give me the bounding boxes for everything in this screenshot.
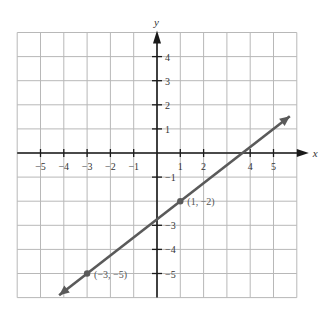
y-tick-label: −3 bbox=[165, 220, 176, 231]
x-tick-label: 1 bbox=[178, 161, 183, 172]
y-tick-label: −5 bbox=[165, 269, 176, 280]
x-axis-label: x bbox=[312, 147, 318, 159]
x-tick-label: −5 bbox=[35, 161, 46, 172]
x-tick-label: −3 bbox=[82, 161, 93, 172]
x-tick-label: −1 bbox=[128, 161, 139, 172]
y-tick-label: 4 bbox=[165, 52, 170, 63]
y-tick-label: 2 bbox=[165, 100, 170, 111]
x-tick-label: 4 bbox=[248, 161, 253, 172]
y-tick-label: −1 bbox=[165, 172, 176, 183]
point-label: (1, −2) bbox=[187, 196, 214, 208]
x-tick-labels: −5−4−3−2−11245 bbox=[35, 161, 276, 172]
x-axis-arrow-icon bbox=[297, 149, 309, 157]
y-tick-label: 3 bbox=[165, 76, 170, 87]
x-tick-label: 2 bbox=[201, 161, 206, 172]
data-points: (1, −2)(−3, −5) bbox=[84, 196, 215, 280]
data-point bbox=[177, 198, 183, 204]
coordinate-plane: −5−4−3−2−11245 4321−1−3−4−5 x y (1, −2)(… bbox=[0, 0, 322, 310]
y-tick-labels: 4321−1−3−4−5 bbox=[165, 52, 176, 280]
x-tick-label: 5 bbox=[271, 161, 276, 172]
y-axis-label: y bbox=[153, 16, 159, 28]
data-point bbox=[84, 270, 90, 276]
x-tick-label: −4 bbox=[58, 161, 69, 172]
y-tick-label: 1 bbox=[165, 124, 170, 135]
point-label: (−3, −5) bbox=[94, 269, 127, 281]
x-tick-label: −2 bbox=[105, 161, 116, 172]
y-tick-label: −4 bbox=[165, 244, 176, 255]
